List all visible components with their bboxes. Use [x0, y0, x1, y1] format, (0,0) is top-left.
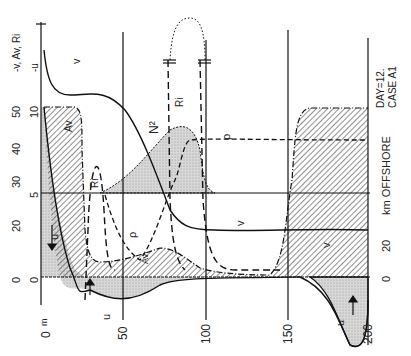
svg-text:Av: Av	[140, 253, 150, 264]
svg-text:20: 20	[380, 240, 392, 252]
svg-text:50: 50	[116, 326, 130, 340]
svg-text:0: 0	[39, 331, 53, 338]
svg-text:Av: Av	[63, 121, 74, 133]
svg-text:ρ: ρ	[126, 232, 138, 238]
svg-text:0: 0	[10, 277, 22, 283]
svg-text:200: 200	[361, 324, 375, 344]
svg-text:Ri: Ri	[89, 179, 100, 188]
svg-text:0: 0	[28, 277, 40, 283]
svg-text:Ri: Ri	[174, 98, 185, 107]
svg-text:v: v	[70, 58, 82, 64]
right-annotations: DAY=12. CASE A1 km OFFSHORE 20 0	[375, 66, 398, 282]
svg-text:100: 100	[199, 324, 213, 344]
svg-text:u: u	[334, 320, 346, 326]
svg-text:-v, Av, Ri: -v, Av, Ri	[11, 34, 22, 72]
svg-text:30: 30	[10, 176, 22, 188]
svg-text:CASE A1: CASE A1	[387, 66, 398, 108]
svg-text:20: 20	[10, 220, 22, 232]
svg-text:50: 50	[10, 106, 22, 118]
svg-text:150: 150	[281, 324, 295, 344]
N2-shaded-region	[100, 127, 215, 193]
x-axis-ticks: 0 m 50 100 150 200	[39, 319, 375, 345]
svg-text:-u: -u	[29, 63, 40, 72]
svg-text:5: 5	[28, 192, 40, 198]
svg-text:u: u	[48, 234, 60, 240]
svg-text:0: 0	[380, 276, 392, 282]
figure-canvas: v u u u Av Av Ri Ri N² ρ ρ v v 50 40 30 …	[0, 0, 411, 356]
svg-text:km OFFSHORE: km OFFSHORE	[380, 136, 392, 215]
Ri-dotted-top	[170, 18, 205, 60]
left-axis-ticks: 50 40 30 20 0 10 5 0 -v, Av, Ri -u	[10, 34, 40, 283]
svg-text:v: v	[320, 242, 332, 248]
svg-text:ρ: ρ	[220, 134, 232, 140]
svg-text:v: v	[234, 220, 246, 226]
svg-text:u: u	[100, 314, 112, 320]
svg-text:DAY=12.: DAY=12.	[375, 68, 386, 108]
svg-text:N²: N²	[147, 121, 161, 134]
svg-text:40: 40	[10, 143, 22, 155]
axis-break-marks	[163, 60, 211, 63]
svg-text:m: m	[39, 319, 49, 327]
svg-text:10: 10	[28, 106, 40, 118]
